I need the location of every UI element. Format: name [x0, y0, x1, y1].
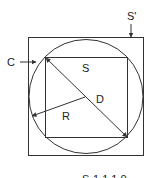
footer-text-cutoff: S-1 1 1 0: [82, 173, 127, 178]
label-d: D: [96, 93, 104, 105]
geometry-diagram: S' C S D R S-1 1 1 0: [0, 0, 153, 178]
label-s-prime: S': [127, 10, 136, 22]
radius-arrow: [32, 97, 85, 116]
label-c: C: [7, 56, 15, 68]
label-s: S: [82, 62, 89, 74]
label-r: R: [62, 110, 70, 122]
